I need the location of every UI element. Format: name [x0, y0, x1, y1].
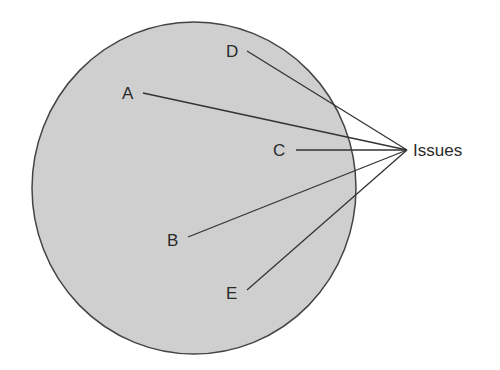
label-d: D [226, 42, 238, 61]
label-issues: Issues [413, 141, 462, 160]
label-b: B [167, 231, 178, 250]
label-c: C [273, 141, 285, 160]
label-e: E [226, 284, 237, 303]
domain-circle [32, 22, 356, 354]
issues-diagram: A B C D E Issues [0, 0, 500, 370]
label-a: A [122, 84, 134, 103]
